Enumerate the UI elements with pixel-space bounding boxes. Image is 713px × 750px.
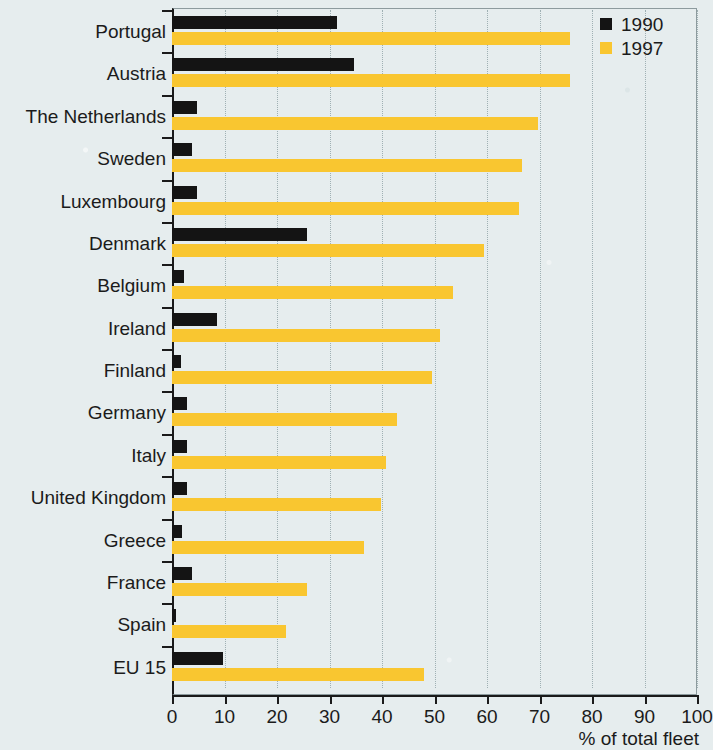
y-axis-label-finland: Finland bbox=[0, 360, 166, 382]
y-axis-label-italy: Italy bbox=[0, 445, 166, 467]
bar-group bbox=[172, 270, 697, 306]
bar-1997 bbox=[172, 498, 381, 511]
bar-1997 bbox=[172, 286, 453, 299]
y-axis-tick bbox=[162, 391, 172, 393]
bar-1997 bbox=[172, 371, 432, 384]
legend: 1990 1997 bbox=[600, 12, 663, 60]
y-axis-tick bbox=[162, 10, 172, 12]
bar-group bbox=[172, 228, 697, 264]
bar-1990 bbox=[172, 58, 354, 71]
y-axis-tick bbox=[162, 52, 172, 54]
y-axis-tick bbox=[162, 307, 172, 309]
x-axis-tick bbox=[172, 695, 174, 704]
bar-1997 bbox=[172, 668, 424, 681]
bar-group bbox=[172, 186, 697, 222]
square-swatch-black-icon bbox=[600, 18, 612, 30]
bar-1990 bbox=[172, 525, 182, 538]
bar-1997 bbox=[172, 159, 522, 172]
x-axis-tick-label: 60 bbox=[476, 706, 497, 728]
y-axis-label-denmark: Denmark bbox=[0, 233, 166, 255]
x-axis-tick bbox=[697, 695, 699, 704]
y-axis-tick bbox=[162, 95, 172, 97]
y-axis-tick bbox=[162, 561, 172, 563]
bar-1997 bbox=[172, 456, 386, 469]
legend-item-1997: 1997 bbox=[600, 36, 663, 60]
bar-1990 bbox=[172, 609, 176, 622]
plot-area bbox=[172, 10, 697, 688]
legend-item-1990: 1990 bbox=[600, 12, 663, 36]
bar-1997 bbox=[172, 74, 570, 87]
x-axis-tick bbox=[592, 695, 594, 704]
bar-1997 bbox=[172, 117, 538, 130]
x-axis-tick bbox=[645, 695, 647, 704]
x-axis-tick-label: 50 bbox=[424, 706, 445, 728]
x-axis-tick bbox=[487, 695, 489, 704]
y-axis-tick bbox=[162, 519, 172, 521]
x-axis-tick-label: 100 bbox=[681, 706, 713, 728]
y-axis-label-spain: Spain bbox=[0, 614, 166, 636]
y-axis-tick bbox=[162, 137, 172, 139]
y-axis-label-portugal: Portugal bbox=[0, 21, 166, 43]
x-axis-tick-label: 10 bbox=[214, 706, 235, 728]
x-axis-tick-label: 90 bbox=[634, 706, 655, 728]
y-axis-tick bbox=[162, 180, 172, 182]
x-axis-tick-label: 0 bbox=[167, 706, 178, 728]
bar-1990 bbox=[172, 567, 192, 580]
gridline bbox=[697, 10, 698, 688]
square-swatch-yellow-icon bbox=[600, 42, 612, 54]
bar-group bbox=[172, 525, 697, 561]
y-axis-tick bbox=[162, 646, 172, 648]
x-axis-tick bbox=[330, 695, 332, 704]
y-axis-label-ireland: Ireland bbox=[0, 318, 166, 340]
y-axis-label-united-kingdom: United Kingdom bbox=[0, 487, 166, 509]
x-axis-tick-label: 40 bbox=[371, 706, 392, 728]
x-axis-tick bbox=[435, 695, 437, 704]
bar-group bbox=[172, 609, 697, 645]
bar-1990 bbox=[172, 355, 181, 368]
bar-group bbox=[172, 482, 697, 518]
y-axis-label-the-netherlands: The Netherlands bbox=[0, 106, 166, 128]
bar-group bbox=[172, 58, 697, 94]
y-axis-tick bbox=[162, 603, 172, 605]
x-axis-tick-label: 70 bbox=[529, 706, 550, 728]
bar-1990 bbox=[172, 270, 184, 283]
y-axis-label-belgium: Belgium bbox=[0, 275, 166, 297]
bar-1990 bbox=[172, 186, 197, 199]
bar-1990 bbox=[172, 101, 197, 114]
bar-1997 bbox=[172, 541, 364, 554]
bar-1990 bbox=[172, 440, 187, 453]
bar-group bbox=[172, 440, 697, 476]
y-axis-tick bbox=[162, 264, 172, 266]
x-axis-tick bbox=[225, 695, 227, 704]
bar-group bbox=[172, 101, 697, 137]
y-axis-label-germany: Germany bbox=[0, 402, 166, 424]
x-axis-tick-label: 80 bbox=[581, 706, 602, 728]
legend-label-1990: 1990 bbox=[621, 15, 663, 34]
bar-1997 bbox=[172, 583, 307, 596]
x-axis-tick bbox=[277, 695, 279, 704]
x-axis-tick bbox=[382, 695, 384, 704]
bar-1990 bbox=[172, 652, 223, 665]
bar-group bbox=[172, 567, 697, 603]
y-axis-label-eu-15: EU 15 bbox=[0, 657, 166, 679]
y-axis-label-sweden: Sweden bbox=[0, 148, 166, 170]
bar-1997 bbox=[172, 32, 570, 45]
y-axis-label-austria: Austria bbox=[0, 63, 166, 85]
bar-1997 bbox=[172, 329, 440, 342]
x-axis-tick-label: 20 bbox=[266, 706, 287, 728]
y-axis-tick bbox=[162, 349, 172, 351]
y-axis-label-france: France bbox=[0, 572, 166, 594]
bar-1997 bbox=[172, 413, 397, 426]
legend-label-1997: 1997 bbox=[621, 39, 663, 58]
x-axis-tick bbox=[540, 695, 542, 704]
bar-group bbox=[172, 397, 697, 433]
bar-group bbox=[172, 652, 697, 688]
y-axis-label-greece: Greece bbox=[0, 530, 166, 552]
y-axis-tick bbox=[162, 434, 172, 436]
bar-group bbox=[172, 313, 697, 349]
x-axis-title: % of total fleet bbox=[579, 728, 699, 750]
bar-1990 bbox=[172, 16, 337, 29]
x-axis-tick-label: 30 bbox=[319, 706, 340, 728]
bar-group bbox=[172, 355, 697, 391]
bar-1990 bbox=[172, 143, 192, 156]
